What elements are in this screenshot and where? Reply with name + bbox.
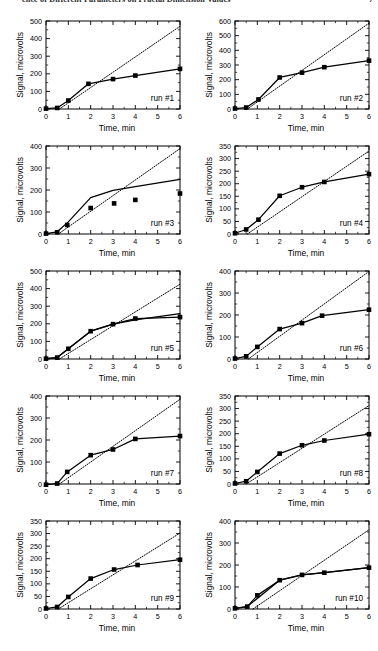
- y-tick-label: 200: [30, 554, 42, 563]
- x-tick-label: 0: [44, 612, 48, 621]
- y-tick-label: 500: [219, 31, 231, 40]
- data-point-marker: [66, 98, 71, 103]
- data-point-marker: [277, 451, 282, 456]
- y-tick-label: 150: [30, 567, 42, 576]
- x-tick-label: 5: [345, 237, 349, 246]
- chart-panel-1: 01234560100200300400500Time, minSignal, …: [0, 9, 189, 134]
- y-axis-label: Signal, microvolts: [204, 32, 214, 98]
- x-tick-label: 4: [133, 487, 137, 496]
- x-tick-label: 3: [300, 487, 304, 496]
- data-point-marker: [133, 73, 138, 78]
- x-tick-label: 6: [178, 362, 182, 371]
- data-point-marker: [111, 77, 116, 82]
- run-label: run #5: [151, 344, 175, 353]
- x-tick-label: 5: [156, 112, 160, 121]
- x-axis-label: Time, min: [288, 623, 325, 633]
- y-tick-label: 350: [30, 517, 42, 526]
- chart-panel-8: 0123456050100150200250300350Time, minSig…: [189, 384, 378, 509]
- x-tick-label: 4: [133, 362, 137, 371]
- data-point-marker: [255, 470, 260, 475]
- y-tick-label: 0: [227, 355, 231, 364]
- data-point-marker: [367, 172, 372, 177]
- x-tick-label: 2: [278, 487, 282, 496]
- x-tick-label: 0: [233, 237, 237, 246]
- y-tick-label: 250: [30, 542, 42, 551]
- y-tick-label: 300: [30, 164, 42, 173]
- data-point-marker: [320, 313, 325, 318]
- x-tick-label: 4: [133, 237, 137, 246]
- data-point-marker: [88, 453, 93, 458]
- chart-panel-3: 01234560100200300400Time, minSignal, mic…: [0, 134, 189, 259]
- x-tick-label: 3: [111, 237, 115, 246]
- x-tick-label: 5: [156, 487, 160, 496]
- running-head-page-number: 7: [369, 0, 373, 4]
- y-tick-label: 400: [219, 267, 231, 276]
- y-tick-label: 0: [38, 480, 42, 489]
- x-tick-label: 6: [367, 237, 371, 246]
- chart-panel-10: 01234560100200300400Time, minSignal, mic…: [189, 509, 378, 634]
- x-axis-label: Time, min: [288, 498, 325, 508]
- x-tick-label: 1: [255, 487, 259, 496]
- x-tick-label: 3: [300, 112, 304, 121]
- y-tick-label: 0: [227, 105, 231, 114]
- x-tick-label: 6: [367, 487, 371, 496]
- y-tick-label: 100: [30, 579, 42, 588]
- data-point-marker: [88, 576, 93, 581]
- x-tick-label: 4: [322, 612, 326, 621]
- x-tick-label: 5: [345, 362, 349, 371]
- x-axis-label: Time, min: [99, 248, 136, 258]
- x-axis-label: Time, min: [99, 373, 136, 383]
- y-tick-label: 250: [219, 167, 231, 176]
- y-tick-label: 100: [30, 337, 42, 346]
- x-tick-label: 6: [367, 612, 371, 621]
- x-tick-label: 2: [278, 362, 282, 371]
- y-tick-label: 50: [34, 592, 42, 601]
- x-tick-label: 0: [44, 487, 48, 496]
- data-point-marker: [86, 82, 91, 87]
- run-label: run #4: [340, 219, 364, 228]
- data-point-marker: [244, 227, 249, 232]
- y-tick-label: 100: [30, 458, 42, 467]
- y-tick-label: 200: [219, 75, 231, 84]
- y-tick-label: 350: [219, 142, 231, 151]
- y-tick-label: 200: [219, 561, 231, 570]
- x-tick-label: 3: [111, 362, 115, 371]
- y-tick-label: 200: [30, 319, 42, 328]
- y-tick-label: 300: [30, 302, 42, 311]
- data-point-marker: [233, 481, 238, 486]
- data-point-marker: [233, 356, 238, 361]
- x-tick-label: 4: [322, 487, 326, 496]
- y-tick-label: 0: [227, 230, 231, 239]
- data-point-marker: [277, 193, 282, 198]
- x-axis-label: Time, min: [99, 498, 136, 508]
- x-tick-label: 1: [66, 362, 70, 371]
- y-tick-label: 400: [30, 392, 42, 401]
- x-axis-label: Time, min: [99, 123, 136, 133]
- data-point-marker: [244, 479, 249, 484]
- y-tick-label: 200: [219, 429, 231, 438]
- data-point-marker: [178, 434, 183, 439]
- data-point-marker: [133, 198, 138, 203]
- x-tick-label: 0: [233, 112, 237, 121]
- x-tick-label: 4: [322, 362, 326, 371]
- x-tick-label: 4: [133, 112, 137, 121]
- y-tick-label: 300: [219, 154, 231, 163]
- x-tick-label: 0: [44, 362, 48, 371]
- data-point-marker: [65, 470, 70, 475]
- x-tick-label: 3: [300, 362, 304, 371]
- run-label: run #9: [151, 594, 175, 603]
- x-tick-label: 2: [89, 362, 93, 371]
- chart-panel-5: 01234560100200300400500Time, minSignal, …: [0, 259, 189, 384]
- y-tick-label: 300: [30, 529, 42, 538]
- run-label: run #1: [151, 94, 175, 103]
- data-point-marker: [300, 185, 305, 190]
- data-point-marker: [112, 567, 117, 572]
- x-tick-label: 5: [156, 237, 160, 246]
- x-tick-label: 2: [89, 237, 93, 246]
- y-tick-label: 100: [30, 87, 42, 96]
- y-tick-label: 150: [219, 442, 231, 451]
- run-label: run #7: [151, 469, 175, 478]
- x-tick-label: 0: [44, 112, 48, 121]
- data-point-marker: [367, 432, 372, 437]
- x-tick-label: 5: [345, 487, 349, 496]
